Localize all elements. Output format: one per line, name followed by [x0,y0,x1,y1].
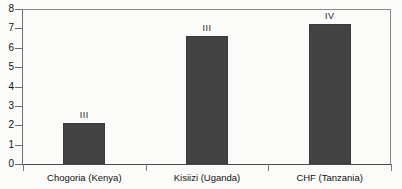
y-axis-tick [15,67,22,68]
y-axis-tick-label: 1 [0,140,14,150]
bar-value-label-1: III [64,111,104,120]
y-axis-tick [15,145,22,146]
bars-layer: IIIIIIIV [23,9,391,164]
y-axis-tick [15,28,22,29]
y-axis-tick [15,87,22,88]
x-axis-separator-tick [268,164,269,171]
bar-chart-figure: 012345678 IIIIIIIV Chogoria (Kenya)Kisii… [0,0,402,189]
x-axis-category-label-1: Chogoria (Kenya) [23,172,146,183]
x-axis-separator-tick [391,164,392,171]
x-axis-separator-tick [23,164,24,171]
y-axis-tick [15,164,22,165]
y-axis-tick-label: 3 [0,101,14,111]
y-axis-tick [15,106,22,107]
bar-value-label-3: IV [310,12,350,21]
bar-1 [63,123,105,164]
y-axis-tick-label: 5 [0,62,14,72]
bar-3 [309,24,351,164]
y-axis-tick-label: 7 [0,23,14,33]
y-axis-tick-label: 2 [0,120,14,130]
y-axis-tick [15,9,22,10]
y-axis-tick-label: 6 [0,43,14,53]
x-axis-category-label-3: CHF (Tanzania) [268,172,391,183]
x-axis-separator-tick [146,164,147,171]
y-axis-tick-label: 0 [0,159,14,169]
bar-2 [186,36,228,164]
bar-value-label-2: III [187,24,227,33]
x-axis-line [22,164,392,165]
y-axis-tick [15,48,22,49]
x-axis-category-label-2: Kisiizi (Uganda) [146,172,269,183]
y-axis-tick-label: 4 [0,82,14,92]
y-axis-tick [15,125,22,126]
y-axis-tick-label: 8 [0,4,14,14]
